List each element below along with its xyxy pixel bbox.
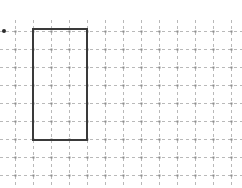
grid-node-11-0 — [213, 31, 215, 33]
grid-node-11-3 — [213, 85, 215, 87]
grid-node-8-5 — [159, 121, 161, 123]
grid-node-8-6 — [159, 139, 161, 141]
grid-node-11-4 — [213, 103, 215, 105]
grid-horizontal-lines — [0, 32, 242, 176]
grid-node-8-7 — [159, 157, 161, 159]
grid-node-6-5 — [123, 121, 125, 123]
grid-node-9-3 — [177, 85, 179, 87]
grid-node-12-8 — [231, 175, 233, 177]
grid-node-8-3 — [159, 85, 161, 87]
grid-node-7-7 — [141, 157, 143, 159]
grid-node-1-8 — [33, 175, 35, 177]
grid-and-shape-svg — [0, 0, 242, 188]
grid-node-2-2 — [51, 67, 53, 69]
grid-node-0-6 — [15, 139, 17, 141]
grid-node-12-3 — [231, 85, 233, 87]
grid-node-10-7 — [195, 157, 197, 159]
rectangle[interactable] — [33, 29, 87, 140]
grid-node-0-5 — [15, 121, 17, 123]
grid-node-6-7 — [123, 157, 125, 159]
grid-node-6-8 — [123, 175, 125, 177]
grid-node-0-8 — [15, 175, 17, 177]
grid-node-11-7 — [213, 157, 215, 159]
grid-node-6-1 — [123, 49, 125, 51]
grid-node-7-3 — [141, 85, 143, 87]
grid-node-10-5 — [195, 121, 197, 123]
marker-layer — [2, 29, 6, 33]
grid-node-3-8 — [69, 175, 71, 177]
grid-node-12-1 — [231, 49, 233, 51]
grid-node-6-2 — [123, 67, 125, 69]
grid-node-5-5 — [105, 121, 107, 123]
grid-node-9-0 — [177, 31, 179, 33]
grid-node-3-3 — [69, 85, 71, 87]
grid-node-12-7 — [231, 157, 233, 159]
grid-node-10-1 — [195, 49, 197, 51]
grid-node-3-2 — [69, 67, 71, 69]
grid-node-10-3 — [195, 85, 197, 87]
grid-node-5-6 — [105, 139, 107, 141]
grid-node-6-3 — [123, 85, 125, 87]
grid-node-8-8 — [159, 175, 161, 177]
origin-dot — [2, 29, 6, 33]
grid-node-11-1 — [213, 49, 215, 51]
grid-node-3-7 — [69, 157, 71, 159]
grid-node-5-0 — [105, 31, 107, 33]
grid-node-0-2 — [15, 67, 17, 69]
grid-node-0-4 — [15, 103, 17, 105]
grid-node-10-2 — [195, 67, 197, 69]
grid-node-12-4 — [231, 103, 233, 105]
graph-paper-canvas — [0, 0, 242, 188]
grid-node-7-2 — [141, 67, 143, 69]
grid-node-2-4 — [51, 103, 53, 105]
grid-node-12-2 — [231, 67, 233, 69]
grid-node-4-8 — [87, 175, 89, 177]
grid-node-12-0 — [231, 31, 233, 33]
shape-layer — [33, 29, 87, 140]
grid-node-7-6 — [141, 139, 143, 141]
grid-node-7-4 — [141, 103, 143, 105]
grid-node-3-4 — [69, 103, 71, 105]
grid-node-2-5 — [51, 121, 53, 123]
grid-node-5-8 — [105, 175, 107, 177]
grid-node-10-0 — [195, 31, 197, 33]
grid-node-10-8 — [195, 175, 197, 177]
grid-node-12-5 — [231, 121, 233, 123]
grid-node-11-5 — [213, 121, 215, 123]
grid-node-8-0 — [159, 31, 161, 33]
grid-node-7-8 — [141, 175, 143, 177]
grid-node-9-8 — [177, 175, 179, 177]
grid-node-4-7 — [87, 157, 89, 159]
grid-node-7-5 — [141, 121, 143, 123]
grid-node-3-5 — [69, 121, 71, 123]
grid-node-9-2 — [177, 67, 179, 69]
grid-node-0-0 — [15, 31, 17, 33]
grid-node-11-8 — [213, 175, 215, 177]
grid-node-8-4 — [159, 103, 161, 105]
grid-node-0-1 — [15, 49, 17, 51]
grid-node-11-6 — [213, 139, 215, 141]
grid-node-11-2 — [213, 67, 215, 69]
grid-node-3-1 — [69, 49, 71, 51]
grid-node-2-0 — [51, 31, 53, 33]
grid-node-0-7 — [15, 157, 17, 159]
grid-node-5-1 — [105, 49, 107, 51]
grid-node-9-4 — [177, 103, 179, 105]
grid-node-12-6 — [231, 139, 233, 141]
grid-node-9-7 — [177, 157, 179, 159]
grid-node-9-5 — [177, 121, 179, 123]
grid-node-8-1 — [159, 49, 161, 51]
grid-node-8-2 — [159, 67, 161, 69]
grid-node-2-3 — [51, 85, 53, 87]
grid-node-6-6 — [123, 139, 125, 141]
grid-node-5-7 — [105, 157, 107, 159]
grid-node-2-7 — [51, 157, 53, 159]
grid-node-9-6 — [177, 139, 179, 141]
grid-node-5-3 — [105, 85, 107, 87]
grid-node-6-0 — [123, 31, 125, 33]
grid-node-7-0 — [141, 31, 143, 33]
grid-node-2-1 — [51, 49, 53, 51]
grid-node-3-0 — [69, 31, 71, 33]
grid-node-7-1 — [141, 49, 143, 51]
grid-node-9-1 — [177, 49, 179, 51]
